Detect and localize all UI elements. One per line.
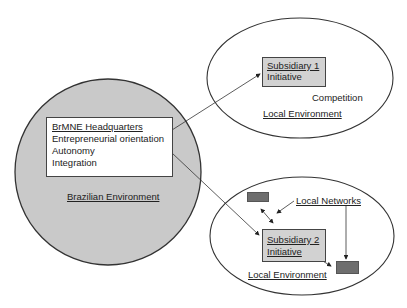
subsidiary1-title: Subsidiary 1 — [267, 60, 319, 72]
headquarters-title: BrMNE Headquarters — [52, 121, 143, 133]
subsidiary2-initiative: Initiative — [267, 246, 302, 258]
subsidiary2-title: Subsidiary 2 — [267, 234, 319, 246]
hq-attribute-entrepreneurial: Entrepreneurial orientation — [52, 133, 164, 145]
local-environment-1-label: Local Environment — [263, 108, 342, 120]
network-node-1 — [247, 192, 269, 202]
competition-label: Competition — [312, 92, 363, 104]
hq-attribute-autonomy: Autonomy — [52, 145, 95, 157]
subsidiary1-initiative: Initiative — [267, 71, 302, 83]
local-networks-label: Local Networks — [296, 195, 361, 207]
hq-attribute-integration: Integration — [52, 157, 97, 169]
network-node-2 — [336, 261, 359, 274]
brazilian-environment-label: Brazilian Environment — [67, 191, 159, 203]
local-environment-2-label: Local Environment — [248, 269, 327, 281]
